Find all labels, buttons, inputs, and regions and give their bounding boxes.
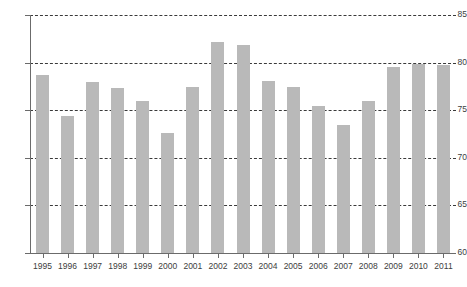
x-tick-mark: [43, 253, 44, 258]
x-tick-mark: [443, 253, 444, 258]
bar: [412, 64, 425, 253]
bars-layer: [30, 15, 456, 253]
bar: [362, 101, 375, 253]
x-tick-mark: [68, 253, 69, 258]
bar: [437, 65, 450, 253]
bar: [111, 88, 124, 253]
bar-chart: 606570758085 199519961997199819992000200…: [0, 0, 467, 287]
x-tick-label: 2011: [428, 262, 458, 271]
x-tick-mark: [393, 253, 394, 258]
bar: [287, 87, 300, 253]
x-tick-mark: [293, 253, 294, 258]
bar: [61, 116, 74, 253]
bar: [186, 87, 199, 253]
x-tick-mark: [368, 253, 369, 258]
x-tick-mark: [168, 253, 169, 258]
x-tick-mark: [243, 253, 244, 258]
x-tick-mark: [193, 253, 194, 258]
x-tick-mark: [418, 253, 419, 258]
bar: [211, 42, 224, 253]
bar: [86, 82, 99, 253]
x-tick-mark: [268, 253, 269, 258]
x-tick-mark: [143, 253, 144, 258]
x-tick-mark: [93, 253, 94, 258]
bar: [237, 45, 250, 253]
x-tick-mark: [343, 253, 344, 258]
bar: [136, 101, 149, 253]
bar: [262, 81, 275, 253]
bar: [36, 75, 49, 253]
x-tick-mark: [218, 253, 219, 258]
bar: [161, 133, 174, 253]
bar: [337, 125, 350, 253]
x-tick-mark: [118, 253, 119, 258]
bar: [387, 67, 400, 253]
bar: [312, 106, 325, 253]
x-tick-mark: [318, 253, 319, 258]
